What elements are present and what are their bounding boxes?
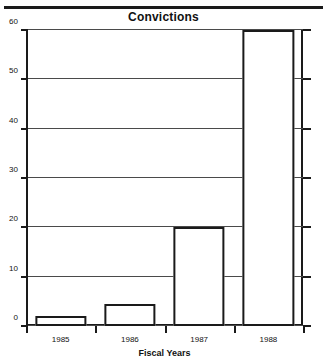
bar-slot [95,30,164,326]
bar-slot [234,30,303,326]
plot-area: 0102030405060 1985198619871988 [26,30,303,326]
x-axis-tick [303,326,305,333]
bar-slot [26,30,95,326]
y-axis-label: 0 [14,313,18,322]
y-axis-label: 60 [9,17,18,26]
x-axis-title: Fiscal Years [26,348,303,358]
bar-1986 [104,304,155,326]
x-axis-tick [95,326,97,333]
x-axis-label: 1985 [52,335,70,344]
y-axis-label: 10 [9,263,18,272]
bar-slot [165,30,234,326]
x-axis-label: 1988 [259,335,277,344]
bar-1985 [35,316,86,326]
y-axis-label: 40 [9,115,18,124]
chart-title: Convictions [0,10,327,24]
x-axis-tick [26,326,28,333]
y-axis-tick-right [303,276,311,278]
y-axis-tick-right [303,29,311,31]
x-axis-tick [165,326,167,333]
bar-1988 [243,30,294,326]
x-axis-label: 1986 [121,335,139,344]
bar-1987 [174,227,225,326]
chart-figure: Convictions 0102030405060 19851986198719… [0,0,327,363]
y-axis-label: 20 [9,214,18,223]
y-axis-tick-right [303,177,311,179]
y-axis-tick-right [303,128,311,130]
x-axis-tick [234,326,236,333]
bar-series [26,30,303,326]
y-axis-label: 50 [9,66,18,75]
y-axis-label: 30 [9,165,18,174]
y-axis-tick-right [303,226,311,228]
y-axis-tick-right [303,78,311,80]
x-axis-label: 1987 [190,335,208,344]
top-rule-divider [4,6,323,9]
